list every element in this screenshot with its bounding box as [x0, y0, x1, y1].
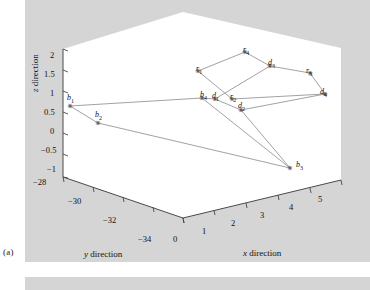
point-label-r3: r3 — [306, 66, 312, 77]
figure-page: 21.510.50−0.5−1 −28−30−32−34 012345 b1b2… — [0, 0, 370, 290]
z-axis-tick-1: 1.5 — [44, 69, 55, 79]
x-axis-tick-5: 5 — [318, 194, 322, 204]
y-axis-tick-1: −30 — [68, 196, 81, 206]
point-label-r1: r1 — [196, 64, 202, 75]
x-axis-tick-4: 4 — [289, 202, 293, 212]
point-label-d2: d2 — [238, 101, 245, 112]
point-label-b2: b2 — [95, 110, 102, 121]
z-axis-tick-2: 1 — [50, 88, 54, 98]
z-axis-tick-0: 2 — [50, 50, 54, 60]
z-axis-tick-4: 0 — [50, 126, 54, 136]
x-axis-title: x direction — [243, 248, 281, 258]
point-label-b1: b1 — [67, 93, 74, 104]
z-axis-tick-3: 0.5 — [44, 107, 55, 117]
y-axis-tick-2: −32 — [103, 215, 116, 225]
x-axis-tick-1: 1 — [202, 226, 206, 236]
point-label-d3: d3 — [268, 58, 275, 69]
figure-caption: (a) — [3, 247, 14, 257]
z-axis-title: z direction — [30, 54, 40, 92]
x-axis-tick-3: 3 — [260, 210, 264, 220]
point-label-r4: r4 — [243, 45, 249, 56]
axes-box-panel — [63, 12, 341, 218]
point-label-b3: b3 — [296, 160, 303, 171]
y-axis-tick-0: −28 — [33, 177, 46, 187]
y-axis-tick-3: −34 — [138, 234, 151, 244]
point-label-r2: r2 — [230, 92, 236, 103]
z-axis-tick-6: −1 — [47, 164, 56, 174]
point-label-d1: d1 — [212, 91, 219, 102]
y-axis-title: y direction — [84, 249, 122, 259]
x-axis-tick-0: 0 — [173, 234, 177, 244]
point-label-b4: b4 — [200, 90, 207, 101]
x-axis-tick-2: 2 — [231, 218, 235, 228]
z-axis-tick-5: −0.5 — [41, 145, 56, 155]
point-label-d4: d4 — [320, 87, 327, 98]
